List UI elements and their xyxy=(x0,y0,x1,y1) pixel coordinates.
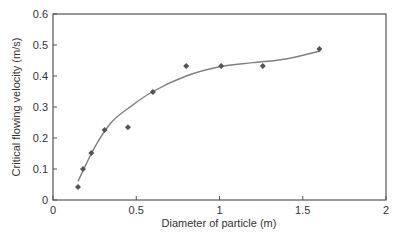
fitted-curve xyxy=(78,51,319,181)
y-axis-title: Critical flowing velocity (m/s) xyxy=(10,38,22,177)
x-tick-label: 2 xyxy=(383,204,389,216)
x-axis-title: Diameter of particle (m) xyxy=(162,217,277,229)
axes: 00.10.20.30.40.50.600.511.52 xyxy=(33,8,389,216)
x-tick-label: 0 xyxy=(50,204,56,216)
plot-area xyxy=(75,46,322,190)
y-tick-label: 0.3 xyxy=(33,101,48,113)
data-point-diamond xyxy=(260,63,266,69)
data-point-diamond xyxy=(125,124,131,130)
x-tick-label: 1.5 xyxy=(295,204,310,216)
y-tick-label: 0.1 xyxy=(33,163,48,175)
y-tick-label: 0.6 xyxy=(33,8,48,20)
data-point-diamond xyxy=(183,63,189,69)
chart: 00.10.20.30.40.50.600.511.52 Diameter of… xyxy=(0,0,404,241)
data-point-diamond xyxy=(75,184,81,190)
plot-frame xyxy=(53,14,386,200)
y-tick-label: 0.5 xyxy=(33,39,48,51)
x-tick-label: 1 xyxy=(216,204,222,216)
y-tick-label: 0 xyxy=(42,194,48,206)
y-tick-label: 0.2 xyxy=(33,132,48,144)
y-tick-label: 0.4 xyxy=(33,70,48,82)
x-tick-label: 0.5 xyxy=(129,204,144,216)
data-point-diamond xyxy=(218,63,224,69)
